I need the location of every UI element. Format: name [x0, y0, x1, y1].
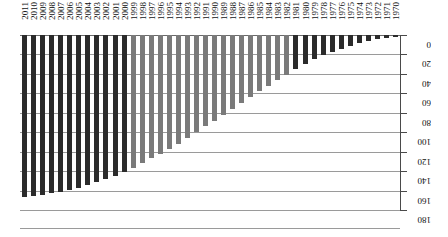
bar-1977[interactable]	[330, 35, 335, 52]
tick-mark-40	[400, 74, 407, 75]
bar-1988[interactable]	[230, 35, 235, 109]
category-axis-labels: 2011201020092008200720062005200420032002…	[20, 0, 400, 33]
bar-2007[interactable]	[58, 35, 63, 192]
bar-1999[interactable]	[131, 35, 136, 168]
tick-label-180: 180	[418, 215, 432, 224]
bottom-rule	[20, 228, 400, 229]
bar-1975[interactable]	[348, 35, 353, 46]
bar-1994[interactable]	[176, 35, 181, 144]
bar-2005[interactable]	[76, 35, 81, 188]
bar-2006[interactable]	[67, 35, 72, 190]
bar-1976[interactable]	[339, 35, 344, 49]
tick-label-140: 140	[418, 176, 432, 185]
value-axis-line	[400, 35, 401, 210]
tick-label-40: 40	[422, 79, 431, 88]
bar-2000[interactable]	[122, 35, 127, 172]
bar-1979[interactable]	[312, 35, 317, 59]
bar-2004[interactable]	[85, 35, 90, 185]
bar-1997[interactable]	[149, 35, 154, 158]
tick-mark-60	[400, 93, 407, 94]
tick-mark-140	[400, 171, 407, 172]
tick-label-160: 160	[418, 196, 432, 205]
bar-1993[interactable]	[185, 35, 190, 138]
tick-mark-180	[400, 210, 407, 211]
bar-2008[interactable]	[49, 35, 54, 193]
tick-label-20: 20	[422, 59, 431, 68]
bar-2010[interactable]	[31, 35, 36, 196]
bar-series	[20, 35, 400, 210]
bar-1970[interactable]	[393, 35, 398, 37]
tick-mark-20	[400, 54, 407, 55]
bar-1987[interactable]	[239, 35, 244, 103]
gridline-180	[20, 210, 400, 211]
tick-label-0: 0	[427, 40, 432, 49]
bar-1983[interactable]	[275, 35, 280, 80]
bar-1990[interactable]	[212, 35, 217, 121]
bar-2009[interactable]	[40, 35, 45, 195]
bar-1991[interactable]	[203, 35, 208, 126]
bar-1986[interactable]	[248, 35, 253, 97]
bar-2001[interactable]	[113, 35, 118, 176]
bar-1984[interactable]	[266, 35, 271, 86]
bar-1982[interactable]	[284, 35, 289, 75]
category-label-1970: 1970	[392, 2, 401, 20]
bar-1989[interactable]	[221, 35, 226, 115]
tick-label-100: 100	[418, 137, 432, 146]
bar-2003[interactable]	[94, 35, 99, 182]
bar-1973[interactable]	[366, 35, 371, 41]
bar-1996[interactable]	[158, 35, 163, 154]
tick-mark-80	[400, 113, 407, 114]
bar-1974[interactable]	[357, 35, 362, 43]
bar-2002[interactable]	[103, 35, 108, 179]
bar-2011[interactable]	[22, 35, 27, 197]
plot-area	[20, 35, 400, 210]
bar-1980[interactable]	[303, 35, 308, 64]
bar-1992[interactable]	[194, 35, 199, 132]
tick-label-80: 80	[422, 118, 431, 127]
bar-1985[interactable]	[257, 35, 262, 91]
bar-1972[interactable]	[375, 35, 380, 39]
tick-mark-160	[400, 191, 407, 192]
chart-container: 2011201020092008200720062005200420032002…	[0, 0, 448, 237]
bar-1971[interactable]	[384, 35, 389, 38]
tick-mark-120	[400, 152, 407, 153]
bar-1978[interactable]	[321, 35, 326, 55]
tick-label-60: 60	[422, 98, 431, 107]
bar-1995[interactable]	[167, 35, 172, 149]
tick-mark-100	[400, 132, 407, 133]
tick-mark-0	[400, 35, 407, 36]
bar-1981[interactable]	[293, 35, 298, 69]
bar-1998[interactable]	[140, 35, 145, 163]
tick-label-120: 120	[418, 157, 432, 166]
